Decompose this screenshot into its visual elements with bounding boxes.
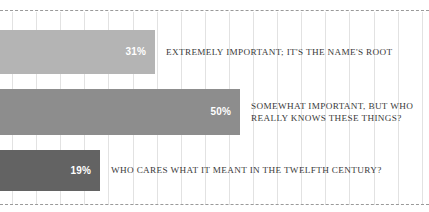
bar-row: 31% EXTREMELY IMPORTANT; IT'S THE NAME'S…	[0, 30, 429, 74]
chart-top-dashed-rule	[0, 10, 429, 11]
bar-category-label: WHO CARES WHAT IT MEANT IN THE TWELFTH C…	[100, 150, 429, 191]
horizontal-bar-chart: 31% EXTREMELY IMPORTANT; IT'S THE NAME'S…	[0, 0, 429, 212]
bar-value-label: 19%	[70, 166, 91, 176]
bar-segment: 50%	[0, 89, 240, 135]
chart-bars: 31% EXTREMELY IMPORTANT; IT'S THE NAME'S…	[0, 0, 429, 212]
bar-category-label: EXTREMELY IMPORTANT; IT'S THE NAME'S ROO…	[155, 30, 429, 74]
chart-bottom-dashed-rule	[0, 204, 429, 205]
bar-row: 50% SOMEWHAT IMPORTANT, BUT WHO REALLY K…	[0, 89, 429, 135]
bar-category-label: SOMEWHAT IMPORTANT, BUT WHO REALLY KNOWS…	[240, 89, 429, 135]
bar-row: 19% WHO CARES WHAT IT MEANT IN THE TWELF…	[0, 150, 429, 191]
bar-segment: 19%	[0, 150, 100, 191]
bar-value-label: 31%	[125, 47, 146, 57]
bar-segment: 31%	[0, 30, 155, 74]
bar-value-label: 50%	[210, 107, 231, 117]
